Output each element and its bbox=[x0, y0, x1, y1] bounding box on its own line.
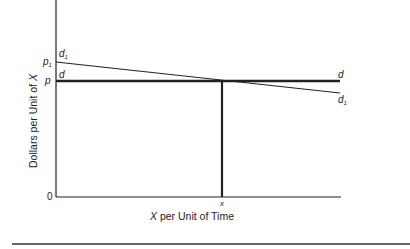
demand-curve-d1 bbox=[56, 62, 340, 93]
y-axis-label: Dollars per Unit of X bbox=[27, 74, 39, 168]
curve-label-d-right: d bbox=[338, 70, 344, 80]
origin-label: 0 bbox=[47, 192, 53, 202]
x-tick-label: x bbox=[220, 199, 224, 209]
price-label-p1: p1 bbox=[43, 57, 52, 70]
curve-label-d-left: d bbox=[59, 70, 65, 80]
x-axis-label: X per Unit of Time bbox=[150, 210, 234, 222]
curve-label-d1-right: d1 bbox=[338, 95, 347, 108]
curve-label-d1-left: d1 bbox=[59, 49, 68, 62]
price-label-p: p bbox=[45, 76, 51, 86]
